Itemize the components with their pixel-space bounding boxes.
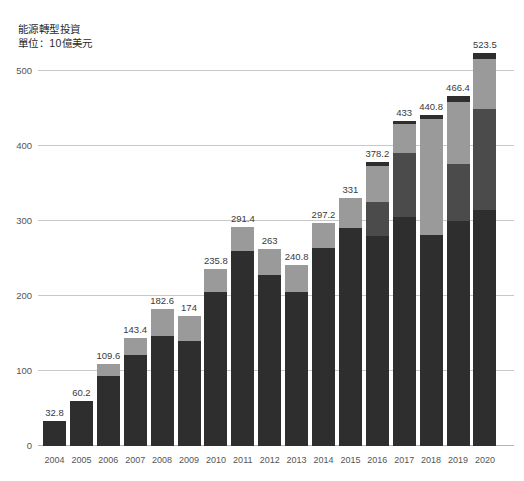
gridline-500: 500 bbox=[38, 70, 514, 71]
bar-2015[interactable]: 3312015 bbox=[339, 198, 362, 446]
x-axis-tick-2004: 2004 bbox=[44, 455, 64, 465]
bar-2012[interactable]: 2632012 bbox=[258, 249, 281, 446]
energy-transition-investment-chart: 能源轉型投資 單位：10億美元 010020030040050032.82004… bbox=[0, 0, 524, 481]
bar-segment-segment-3 bbox=[420, 119, 443, 235]
y-axis-tick-100: 100 bbox=[16, 365, 32, 376]
x-axis-tick-2019: 2019 bbox=[448, 455, 468, 465]
bar-segment-segment-2 bbox=[393, 153, 416, 218]
bar-segment-segment-3 bbox=[312, 223, 335, 248]
bar-segment-segment-3 bbox=[393, 124, 416, 153]
bar-2007[interactable]: 143.42007 bbox=[124, 338, 147, 446]
bar-segment-segment-3 bbox=[473, 59, 496, 109]
bar-2020[interactable]: 523.52020 bbox=[473, 53, 496, 446]
bar-segment-segment-1 bbox=[312, 248, 335, 446]
page-title: 能源轉型投資 bbox=[18, 22, 93, 36]
bar-value-label: 378.2 bbox=[365, 148, 389, 159]
bar-value-label: 240.8 bbox=[285, 251, 309, 262]
chart-subtitle: 單位：10億美元 bbox=[18, 36, 93, 50]
bar-segment-segment-1 bbox=[339, 228, 362, 446]
bar-segment-segment-1 bbox=[366, 236, 389, 446]
bar-segment-segment-2 bbox=[447, 164, 470, 221]
x-axis-tick-2011: 2011 bbox=[233, 455, 252, 465]
x-axis-tick-2005: 2005 bbox=[71, 455, 91, 465]
bar-segment-segment-1 bbox=[473, 210, 496, 446]
bar-segment-segment-2 bbox=[366, 202, 389, 237]
bar-segment-segment-1 bbox=[285, 292, 308, 447]
bar-value-label: 32.8 bbox=[45, 407, 64, 418]
x-axis-tick-2013: 2013 bbox=[287, 455, 307, 465]
y-axis-tick-0: 0 bbox=[27, 440, 32, 451]
bar-value-label: 433 bbox=[396, 107, 412, 118]
plot-area: 010020030040050032.8200460.22005109.6200… bbox=[38, 56, 514, 446]
y-axis-tick-300: 300 bbox=[16, 215, 32, 226]
bar-segment-segment-3 bbox=[366, 166, 389, 201]
bar-segment-segment-1 bbox=[124, 355, 147, 447]
bar-segment-segment-3 bbox=[258, 249, 281, 275]
bar-2011[interactable]: 291.42011 bbox=[231, 227, 254, 446]
x-axis-tick-2014: 2014 bbox=[313, 455, 333, 465]
bar-value-label: 523.5 bbox=[473, 39, 497, 50]
bar-segment-segment-3 bbox=[204, 269, 227, 291]
bar-value-label: 235.8 bbox=[204, 255, 228, 266]
bar-segment-segment-3 bbox=[447, 102, 470, 164]
bar-2006[interactable]: 109.62006 bbox=[97, 364, 120, 446]
bar-2018[interactable]: 440.82018 bbox=[420, 115, 443, 446]
bar-value-label: 291.4 bbox=[231, 213, 255, 224]
bar-segment-segment-3 bbox=[231, 227, 254, 251]
gridline-300: 300 bbox=[38, 220, 514, 221]
bar-2009[interactable]: 1742009 bbox=[178, 316, 201, 447]
bar-segment-segment-3 bbox=[97, 364, 120, 376]
bar-2010[interactable]: 235.82010 bbox=[204, 269, 227, 446]
bar-2017[interactable]: 4332017 bbox=[393, 121, 416, 446]
bar-value-label: 109.6 bbox=[96, 350, 120, 361]
bar-2014[interactable]: 297.22014 bbox=[312, 223, 335, 446]
gridline-400: 400 bbox=[38, 145, 514, 146]
bar-value-label: 331 bbox=[342, 184, 358, 195]
bar-2019[interactable]: 466.42019 bbox=[447, 96, 470, 446]
y-axis-tick-500: 500 bbox=[16, 65, 32, 76]
bar-segment-segment-3 bbox=[151, 309, 174, 336]
x-axis-tick-2018: 2018 bbox=[421, 455, 441, 465]
chart-title-block: 能源轉型投資 單位：10億美元 bbox=[18, 22, 93, 50]
bar-2004[interactable]: 32.82004 bbox=[43, 421, 66, 446]
bar-2013[interactable]: 240.82013 bbox=[285, 265, 308, 446]
bar-2016[interactable]: 378.22016 bbox=[366, 162, 389, 446]
y-axis-tick-400: 400 bbox=[16, 140, 32, 151]
bar-value-label: 297.2 bbox=[312, 209, 336, 220]
bar-value-label: 182.6 bbox=[150, 295, 174, 306]
bar-segment-segment-3 bbox=[124, 338, 147, 354]
bar-segment-segment-1 bbox=[43, 421, 66, 446]
bar-segment-segment-1 bbox=[151, 336, 174, 446]
bar-2008[interactable]: 182.62008 bbox=[151, 309, 174, 446]
bar-segment-segment-1 bbox=[70, 401, 93, 446]
bar-segment-segment-3 bbox=[178, 316, 201, 342]
bar-segment-segment-3 bbox=[285, 265, 308, 291]
bar-segment-segment-1 bbox=[204, 292, 227, 447]
x-axis-tick-2016: 2016 bbox=[367, 455, 387, 465]
bar-value-label: 440.8 bbox=[419, 101, 443, 112]
bar-segment-segment-1 bbox=[447, 221, 470, 446]
bar-segment-segment-1 bbox=[258, 275, 281, 446]
x-axis-tick-2006: 2006 bbox=[98, 455, 118, 465]
bar-value-label: 143.4 bbox=[123, 324, 147, 335]
bar-2005[interactable]: 60.22005 bbox=[70, 401, 93, 446]
bar-value-label: 263 bbox=[262, 235, 278, 246]
x-axis-tick-2017: 2017 bbox=[394, 455, 414, 465]
x-axis-tick-2007: 2007 bbox=[125, 455, 145, 465]
bar-value-label: 466.4 bbox=[446, 82, 470, 93]
bar-segment-segment-1 bbox=[97, 376, 120, 447]
bar-segment-segment-1 bbox=[231, 251, 254, 446]
x-axis-tick-2020: 2020 bbox=[475, 455, 495, 465]
bar-segment-segment-2 bbox=[473, 109, 496, 210]
bar-value-label: 60.2 bbox=[72, 387, 91, 398]
y-axis-tick-200: 200 bbox=[16, 290, 32, 301]
x-axis-tick-2009: 2009 bbox=[179, 455, 199, 465]
x-axis-tick-2015: 2015 bbox=[340, 455, 360, 465]
bar-value-label: 174 bbox=[181, 302, 197, 313]
x-axis-tick-2010: 2010 bbox=[206, 455, 226, 465]
bar-segment-segment-1 bbox=[178, 341, 201, 446]
bar-segment-segment-3 bbox=[339, 198, 362, 228]
x-axis-tick-2008: 2008 bbox=[152, 455, 172, 465]
bar-segment-segment-1 bbox=[393, 217, 416, 446]
bar-segment-segment-1 bbox=[420, 235, 443, 446]
